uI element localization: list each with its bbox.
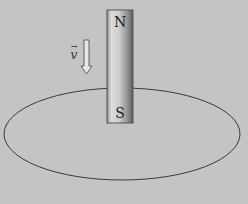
vector-arrow-accent: → <box>71 42 78 51</box>
velocity-arrow-icon <box>81 40 92 74</box>
south-pole-label: S <box>115 105 125 121</box>
north-pole-label: N <box>114 14 126 30</box>
wire-loop-front <box>4 134 240 180</box>
bar-magnet: N S <box>107 10 133 123</box>
diagram-canvas: N S v → <box>0 0 248 204</box>
